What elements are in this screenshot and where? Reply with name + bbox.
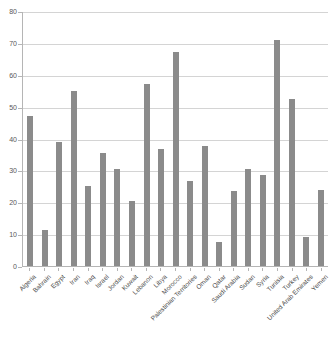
bar[interactable]	[260, 175, 266, 266]
bar[interactable]	[216, 242, 222, 266]
y-tick-mark	[18, 235, 22, 236]
y-tick-mark	[18, 171, 22, 172]
bar[interactable]	[56, 142, 62, 266]
bar-slot	[125, 12, 140, 266]
x-tick-mark	[58, 268, 59, 271]
bar[interactable]	[231, 191, 237, 266]
x-tick-mark	[88, 268, 89, 271]
x-tick-mark	[233, 268, 234, 271]
plot-area	[22, 12, 328, 267]
bar-slot	[256, 12, 271, 266]
bar[interactable]	[303, 237, 309, 266]
y-tick-label: 60	[9, 72, 17, 80]
y-tick-label: 40	[9, 136, 17, 144]
x-tick-mark	[219, 268, 220, 271]
bar[interactable]	[158, 149, 164, 266]
x-tick-mark	[306, 268, 307, 271]
bar-slot	[183, 12, 198, 266]
bar[interactable]	[245, 169, 251, 266]
bar-slot	[299, 12, 314, 266]
bar[interactable]	[274, 40, 280, 266]
x-tick-mark	[73, 268, 74, 271]
x-tick-mark	[102, 268, 103, 271]
bar-slot	[226, 12, 241, 266]
bar[interactable]	[202, 146, 208, 266]
bar[interactable]	[100, 153, 106, 266]
y-tick-label: 50	[9, 104, 17, 112]
x-tick-mark	[117, 268, 118, 271]
bar-slot	[197, 12, 212, 266]
y-tick-label: 10	[9, 231, 17, 239]
bar-slot	[285, 12, 300, 266]
bar[interactable]	[42, 230, 48, 266]
bar[interactable]	[114, 169, 120, 266]
bar-series	[23, 12, 328, 266]
bar-slot	[67, 12, 82, 266]
bar[interactable]	[318, 190, 324, 266]
x-tick-mark	[131, 268, 132, 271]
x-tick-mark	[262, 268, 263, 271]
bar-slot	[52, 12, 67, 266]
x-axis: AlgeriaBahrainEgyptIranIraqIsraelJordanK…	[22, 268, 328, 339]
y-tick-label: 20	[9, 199, 17, 207]
y-tick-mark	[18, 108, 22, 109]
bar-slot	[241, 12, 256, 266]
x-tick-label: Iran	[68, 273, 81, 286]
bar-slot	[96, 12, 111, 266]
y-axis: 01020304050607080	[0, 0, 20, 279]
bar-slot	[314, 12, 329, 266]
bar-slot	[270, 12, 285, 266]
y-tick-mark	[18, 76, 22, 77]
x-tick-mark	[248, 268, 249, 271]
y-tick-mark	[18, 203, 22, 204]
bar-slot	[168, 12, 183, 266]
y-tick-label: 80	[9, 8, 17, 16]
bar-chart: 01020304050607080 AlgeriaBahrainEgyptIra…	[0, 0, 334, 339]
x-tick-mark	[146, 268, 147, 271]
bar-slot	[23, 12, 38, 266]
bar[interactable]	[27, 116, 33, 266]
y-tick-label: 0	[13, 263, 17, 271]
x-tick-mark	[277, 268, 278, 271]
y-tick-mark	[18, 12, 22, 13]
bar-slot	[38, 12, 53, 266]
x-tick-mark	[29, 268, 30, 271]
bar[interactable]	[289, 99, 295, 266]
y-tick-mark	[18, 44, 22, 45]
y-tick-label: 30	[9, 167, 17, 175]
x-tick-label: Oman	[195, 273, 212, 290]
bar[interactable]	[144, 84, 150, 266]
x-tick-mark	[190, 268, 191, 271]
bar-slot	[139, 12, 154, 266]
bar[interactable]	[173, 52, 179, 266]
x-tick-mark	[160, 268, 161, 271]
bar-slot	[212, 12, 227, 266]
bar[interactable]	[187, 181, 193, 266]
bar-slot	[110, 12, 125, 266]
bar-slot	[154, 12, 169, 266]
x-tick-mark	[321, 268, 322, 271]
bar[interactable]	[71, 91, 77, 266]
y-tick-label: 70	[9, 40, 17, 48]
x-tick-mark	[175, 268, 176, 271]
bar-slot	[81, 12, 96, 266]
y-tick-mark	[18, 140, 22, 141]
x-tick-mark	[292, 268, 293, 271]
x-tick-label: Sudan	[238, 273, 256, 291]
bar[interactable]	[85, 186, 91, 266]
x-tick-mark	[204, 268, 205, 271]
x-tick-label: Egypt	[50, 273, 67, 290]
bar[interactable]	[129, 201, 135, 266]
x-tick-mark	[44, 268, 45, 271]
